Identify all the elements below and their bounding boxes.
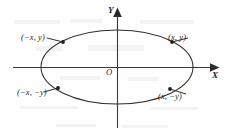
point-label-lower-right: (x, −y) [158, 92, 182, 101]
y-axis-label: Y [108, 6, 114, 15]
origin-label: O [106, 68, 112, 77]
point-label-upper-left: (−x, y) [21, 33, 45, 42]
x-axis [13, 63, 220, 72]
point-label-lower-left: (−x, −y) [17, 88, 47, 97]
figure-canvas [0, 0, 227, 135]
ellipse-symmetry-figure: (−x, y) (x, y) (−x, −y) (x, −y) Y X O [0, 0, 227, 135]
x-axis-label: X [212, 71, 218, 80]
point-label-upper-right: (x, y) [168, 33, 186, 42]
